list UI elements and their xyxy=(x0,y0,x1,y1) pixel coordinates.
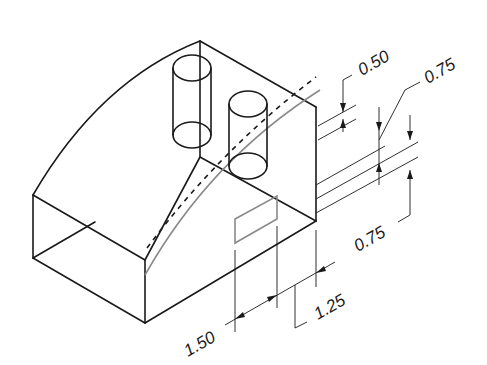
dimension-0-75-lower: 0.75 xyxy=(351,115,414,255)
top-right-edge xyxy=(200,41,316,107)
cylinder-left xyxy=(173,55,211,148)
dimension-label: 0.50 xyxy=(355,46,394,79)
front-bottom-edge xyxy=(33,258,145,323)
isometric-part-drawing: 0.50 0.75 0.75 1.50 1.25 xyxy=(0,0,487,365)
slot-feature xyxy=(235,196,277,243)
left-base-edge xyxy=(33,222,95,258)
front-top-edge xyxy=(33,195,145,260)
bottom-right-edge xyxy=(145,221,316,323)
dimension-1-50-1-25: 1.50 1.25 xyxy=(181,226,350,360)
dimension-label: 1.25 xyxy=(311,290,350,323)
dimension-label: 1.50 xyxy=(181,327,220,360)
feature-curve xyxy=(145,90,320,275)
step-right-edge xyxy=(200,157,316,221)
dimension-0-75-upper: 0.75 xyxy=(316,54,459,213)
curved-top-edge xyxy=(33,41,200,195)
step-front-edge xyxy=(145,157,200,260)
dimension-0-50: 0.50 xyxy=(318,46,393,140)
dimension-label: 0.75 xyxy=(351,222,390,255)
dimension-label: 0.75 xyxy=(421,54,460,87)
